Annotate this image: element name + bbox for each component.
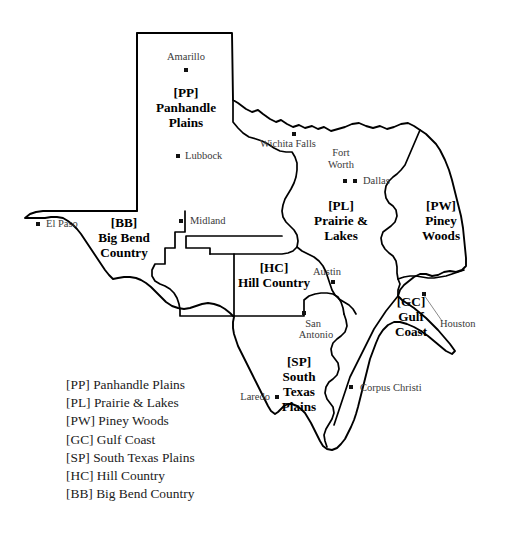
- city-dot: [36, 222, 40, 226]
- region-label-line: [HC]: [260, 260, 289, 275]
- region-label-line: [SP]: [287, 354, 311, 369]
- city-label: El Paso: [46, 218, 78, 229]
- city-label: Fort: [332, 147, 350, 158]
- city-dot: [176, 154, 180, 158]
- region-label-line: Hill Country: [238, 275, 311, 290]
- legend-item: [PL] Prairie & Lakes: [66, 394, 276, 412]
- city-dot: [343, 179, 347, 183]
- city-label: Austin: [313, 266, 342, 277]
- city-dot: [179, 219, 183, 223]
- legend-item: [BB] Big Bend Country: [66, 485, 276, 503]
- legend-item: [PW] Piney Woods: [66, 412, 276, 430]
- region-label-line: Texas: [283, 384, 315, 399]
- region-label: [GC]GulfCoast: [395, 294, 428, 339]
- legend-item: [PP] Panhandle Plains: [66, 376, 276, 394]
- region-label-line: [BB]: [111, 215, 137, 230]
- region-label-line: Prairie &: [314, 213, 368, 228]
- city-label: Amarillo: [167, 51, 205, 62]
- city-dot: [353, 179, 357, 183]
- city-dot: [349, 385, 353, 389]
- region-label-line: Country: [100, 245, 148, 260]
- city-label: Midland: [190, 215, 226, 226]
- texas-region-map: AmarilloLubbockWichita FallsFortWorthDal…: [0, 0, 505, 539]
- city-label: Wichita Falls: [260, 138, 316, 149]
- legend-item: [GC] Gulf Coast: [66, 431, 276, 449]
- city-dot: [184, 68, 188, 72]
- region-label-line: Piney: [425, 213, 457, 228]
- region-label-line: Plains: [282, 399, 316, 414]
- city-label: Houston: [440, 318, 476, 329]
- region-label-line: [PP]: [174, 85, 199, 100]
- region-label: [SP]SouthTexasPlains: [282, 354, 316, 414]
- region-label-line: Lakes: [324, 228, 358, 243]
- region-label: [PW]PineyWoods: [422, 198, 460, 243]
- city-dot: [292, 132, 296, 136]
- city-label: Lubbock: [185, 150, 223, 161]
- city-label: Antonio: [299, 329, 333, 340]
- city-label: Worth: [328, 159, 355, 170]
- region-label-line: South: [283, 369, 317, 384]
- city-label: San: [305, 318, 322, 329]
- region-label-line: [GC]: [397, 294, 426, 309]
- legend-item: [SP] South Texas Plains: [66, 449, 276, 467]
- region-label-line: Woods: [422, 228, 460, 243]
- city-label: Corpus Christi: [360, 382, 422, 393]
- region-label-line: [PL]: [328, 198, 354, 213]
- region-label-line: Plains: [169, 115, 203, 130]
- region-legend: [PP] Panhandle Plains [PL] Prairie & Lak…: [66, 376, 276, 503]
- region-label-line: Gulf: [398, 309, 424, 324]
- legend-item: [HC] Hill Country: [66, 467, 276, 485]
- region-label-line: Panhandle: [156, 100, 216, 115]
- city-label: Dallas: [363, 175, 390, 186]
- region-label-line: [PW]: [426, 198, 456, 213]
- region-label-line: Big Bend: [98, 230, 150, 245]
- region-label-line: Coast: [395, 324, 428, 339]
- city-dot: [302, 311, 306, 315]
- city-dot: [331, 280, 335, 284]
